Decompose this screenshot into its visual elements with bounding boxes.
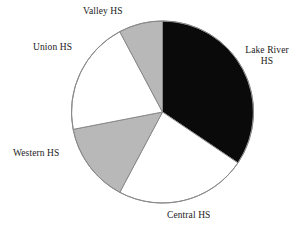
- pie-label-central-hs: Central HS: [167, 210, 210, 221]
- pie-label-valley-hs: Valley HS: [83, 6, 123, 17]
- pie-label-western-hs: Western HS: [13, 148, 59, 159]
- pie-chart-canvas: [0, 0, 308, 232]
- pie-label-lake-river-line1: Lake River: [245, 45, 288, 55]
- pie-label-lake-river-hs: Lake River HS: [236, 45, 298, 67]
- pie-slice-group: [71, 21, 253, 203]
- pie-chart-figure: Valley HS Union HS Lake River HS Western…: [0, 0, 308, 232]
- pie-label-union-hs: Union HS: [33, 42, 72, 53]
- pie-label-lake-river-line2: HS: [261, 56, 273, 66]
